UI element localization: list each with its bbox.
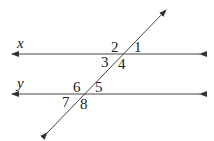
angle-6-label: 6: [73, 80, 81, 95]
angle-3-label: 3: [101, 55, 109, 70]
angle-7-label: 7: [62, 95, 70, 110]
angle-8-label: 8: [80, 97, 88, 112]
line-y-label: y: [17, 76, 24, 91]
angle-4-label: 4: [118, 57, 126, 72]
transversal: [47, 10, 166, 133]
diagram-canvas: x y 1 2 3 4 5 6 7 8: [0, 0, 214, 141]
angle-5-label: 5: [95, 80, 103, 95]
diagram-lines: [0, 0, 214, 141]
angle-1-label: 1: [134, 40, 142, 55]
line-x-label: x: [17, 36, 24, 51]
angle-2-label: 2: [111, 40, 119, 55]
